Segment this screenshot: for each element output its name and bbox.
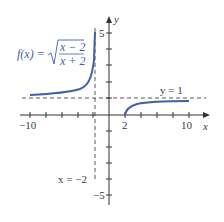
- function-lhs: f(x) =: [17, 47, 45, 61]
- horizontal-asymptote-label: y = 1: [160, 84, 183, 96]
- tick-label-2: 2: [122, 119, 128, 131]
- y-axis-arrow-icon: [106, 16, 112, 23]
- function-graph: y x −10 2 10 5 −5 y = 1 x = −2 f(x) = x …: [0, 0, 224, 222]
- function-label: f(x) = x − 2 x + 2: [17, 40, 85, 68]
- tick-label-neg10: −10: [19, 119, 37, 131]
- vertical-asymptote-label: x = −2: [58, 173, 87, 185]
- function-numerator: x − 2: [59, 40, 85, 54]
- x-axis-arrow-icon: [203, 112, 210, 118]
- x-axis-label: x: [202, 120, 208, 132]
- function-denominator: x + 2: [59, 54, 85, 68]
- y-axis-label: y: [113, 13, 119, 25]
- tick-label-5: 5: [99, 27, 105, 39]
- tick-label-neg5: −5: [93, 189, 105, 201]
- tick-label-10: 10: [181, 119, 193, 131]
